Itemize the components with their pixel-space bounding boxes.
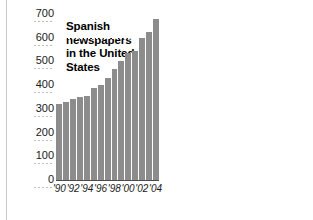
right-chart-panel: Ad revenue 0200400600$800 million '90'92… bbox=[155, 0, 313, 220]
left-y-axis: 0100200300400500600700 bbox=[2, 0, 54, 220]
x-tick-label: '02 bbox=[135, 183, 148, 195]
bar bbox=[105, 78, 112, 180]
bar bbox=[91, 88, 98, 180]
bar bbox=[77, 97, 84, 180]
bar bbox=[118, 61, 125, 180]
y-tick-label: 0 bbox=[8, 174, 54, 185]
y-tick-mark bbox=[34, 68, 52, 69]
bar bbox=[84, 96, 91, 180]
y-tick-label: 700 bbox=[8, 8, 54, 19]
bar bbox=[146, 32, 153, 180]
y-tick-label: 300 bbox=[8, 103, 54, 114]
bar bbox=[132, 51, 139, 180]
bar bbox=[70, 99, 77, 180]
left-chart-panel: Spanish newspapers in the United States … bbox=[0, 0, 160, 220]
y-tick-mark bbox=[34, 92, 52, 93]
left-plot-area bbox=[56, 14, 159, 180]
y-tick-mark bbox=[34, 21, 52, 22]
x-tick-label: '94 bbox=[80, 183, 93, 195]
bar bbox=[112, 69, 119, 180]
y-tick-label: 400 bbox=[8, 79, 54, 90]
left-axis-baseline bbox=[56, 180, 159, 181]
bar bbox=[56, 104, 63, 180]
chart-figure: Spanish newspapers in the United States … bbox=[0, 0, 313, 220]
y-tick-mark bbox=[34, 116, 52, 117]
x-tick-label: '90 bbox=[53, 183, 66, 195]
y-tick-label: 600 bbox=[8, 32, 54, 43]
bar bbox=[125, 53, 132, 180]
bar bbox=[98, 85, 105, 180]
left-x-axis: '90'92'94'96'98'00'02'04 bbox=[50, 183, 164, 197]
y-tick-mark bbox=[34, 45, 52, 46]
bar bbox=[63, 102, 70, 180]
y-tick-mark bbox=[34, 163, 52, 164]
y-tick-mark bbox=[34, 140, 52, 141]
x-tick-label: '00 bbox=[122, 183, 135, 195]
y-tick-label: 200 bbox=[8, 127, 54, 138]
x-tick-label: '98 bbox=[108, 183, 121, 195]
x-tick-label: '96 bbox=[94, 183, 107, 195]
y-tick-label: 500 bbox=[8, 55, 54, 66]
x-tick-label: '92 bbox=[67, 183, 80, 195]
bar bbox=[139, 38, 146, 180]
left-bar-series bbox=[56, 14, 159, 180]
y-tick-label: 100 bbox=[8, 150, 54, 161]
